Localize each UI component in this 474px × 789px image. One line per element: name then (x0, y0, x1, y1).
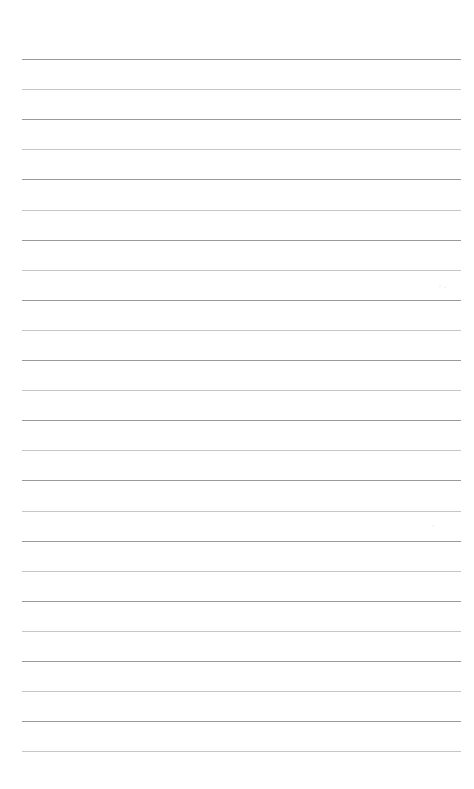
writing-line-4[interactable] (22, 120, 461, 149)
writing-line-11[interactable] (22, 331, 461, 360)
rule-line-24 (22, 751, 461, 752)
writing-line-10[interactable] (22, 301, 461, 330)
speckle-upper-right (439, 285, 441, 287)
writing-line-15[interactable] (22, 451, 461, 480)
writing-line-14[interactable] (22, 421, 461, 450)
writing-line-24[interactable] (22, 722, 461, 751)
writing-line-9[interactable] (22, 271, 461, 300)
writing-line-20[interactable] (22, 602, 461, 631)
writing-line-12[interactable] (22, 361, 461, 390)
writing-line-13[interactable] (22, 391, 461, 420)
writing-line-18[interactable] (22, 542, 461, 571)
writing-line-3[interactable] (22, 90, 461, 119)
notepaper-page (0, 0, 474, 789)
writing-line-2[interactable] (22, 60, 461, 89)
writing-line-17[interactable] (22, 512, 461, 541)
writing-line-22[interactable] (22, 662, 461, 691)
ruled-writing-area[interactable] (0, 0, 474, 789)
speckle-upper-right-2 (444, 286, 446, 288)
writing-line-1[interactable] (22, 30, 461, 59)
writing-line-5[interactable] (22, 150, 461, 179)
writing-line-21[interactable] (22, 632, 461, 661)
writing-line-23[interactable] (22, 692, 461, 721)
writing-line-16[interactable] (22, 481, 461, 510)
writing-line-8[interactable] (22, 241, 461, 270)
writing-line-7[interactable] (22, 211, 461, 240)
speckle-mid-right (432, 525, 434, 527)
writing-line-6[interactable] (22, 180, 461, 209)
writing-line-19[interactable] (22, 572, 461, 601)
